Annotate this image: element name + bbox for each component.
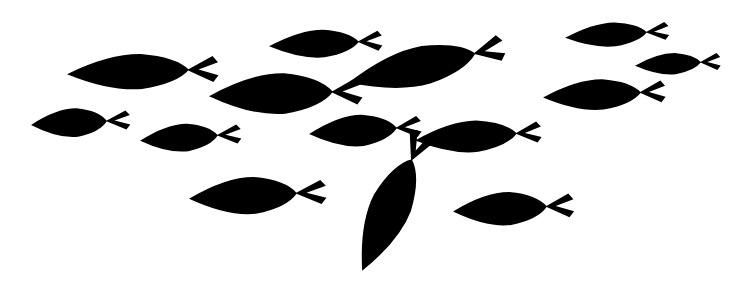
fish-school-artboard: Large fish upper leftSmall fish top cent…: [0, 0, 744, 293]
fish-school-illustration: Large fish upper leftSmall fish top cent…: [0, 0, 744, 293]
